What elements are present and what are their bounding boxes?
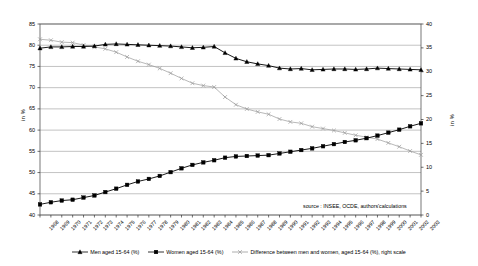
y-tick-label-right: 5	[426, 188, 442, 194]
y-tick-label-right: 35	[426, 44, 442, 50]
y-tick-label-left: 50	[19, 169, 35, 175]
y-tick-label-left: 60	[19, 127, 35, 133]
legend-marker-triangle-icon	[72, 248, 88, 256]
legend-item-2[interactable]: Women aged 15-64 (%)	[148, 248, 223, 256]
y-tick-label-left: 75	[19, 63, 35, 69]
legend-marker-x-icon	[232, 248, 248, 256]
y-tick-label-left: 55	[19, 148, 35, 154]
y-tick-label-right: 20	[426, 116, 442, 122]
y-tick-label-left: 85	[19, 21, 35, 27]
chart-container: in % in % source : INSEE, OCDE, authors'…	[0, 0, 478, 266]
y-tick-label-right: 30	[426, 68, 442, 74]
legend-item-1[interactable]: Men aged 15-64 (%)	[72, 248, 139, 256]
y-tick-label-right: 15	[426, 140, 442, 146]
legend-label: Difference between men and women, aged 1…	[250, 249, 405, 255]
legend-marker-square-icon	[148, 248, 164, 256]
y-tick-label-right: 40	[426, 21, 442, 27]
source-annotation: source : INSEE, OCDE, authors'calculatio…	[303, 203, 407, 209]
legend-label: Men aged 15-64 (%)	[90, 249, 139, 255]
y-axis-label-right: in %	[449, 114, 455, 126]
chart-legend: Men aged 15-64 (%)Women aged 15-64 (%)Di…	[0, 248, 478, 256]
y-tick-label-right: 25	[426, 92, 442, 98]
series-1	[38, 42, 423, 72]
y-tick-label-left: 70	[19, 84, 35, 90]
y-tick-label-left: 80	[19, 42, 35, 48]
y-tick-label-left: 65	[19, 105, 35, 111]
y-tick-label-left: 40	[19, 212, 35, 218]
y-tick-label-right: 10	[426, 164, 442, 170]
y-tick-label-right: 0	[426, 212, 442, 218]
legend-label: Women aged 15-64 (%)	[166, 249, 223, 255]
y-tick-label-left: 45	[19, 190, 35, 196]
legend-item-3[interactable]: Difference between men and women, aged 1…	[232, 248, 405, 256]
